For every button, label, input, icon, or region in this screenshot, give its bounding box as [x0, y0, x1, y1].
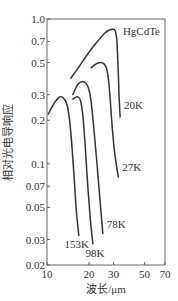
x-tick-label: 10: [42, 268, 54, 280]
curve-label-27k: 27K: [122, 161, 141, 173]
x-tick-label: 50: [139, 268, 151, 280]
curve-label-78k: 78K: [107, 218, 126, 230]
x-tick-label: 70: [160, 268, 172, 280]
curve-78k: [73, 81, 103, 233]
x-axis-title: 波长/μm: [86, 283, 126, 295]
y-tick-label: 0.7: [31, 35, 45, 47]
y-tick-label: 0.05: [26, 201, 46, 213]
series-curves: [48, 29, 120, 244]
chart: 1.00.70.50.30.20.10.070.050.030.02 10203…: [0, 0, 178, 301]
y-tick-label: 0.2: [31, 114, 45, 126]
curve-153k: [48, 97, 79, 236]
series-labels: 20K27K78K98K153K: [65, 99, 144, 259]
curve-98k: [73, 97, 93, 244]
curve-27k: [91, 63, 118, 177]
x-tick-label: 30: [108, 268, 120, 280]
y-tick-label: 1.0: [31, 13, 45, 25]
y-tick-label: 0.1: [31, 158, 45, 170]
x-tick-label: 20: [84, 268, 96, 280]
y-axis-title: 相对光电导响应: [1, 104, 14, 181]
y-tick-label: 0.03: [26, 234, 46, 246]
curve-label-20k: 20K: [124, 99, 143, 111]
curve-20k: [71, 29, 120, 117]
material-annotation: HgCdTe: [123, 25, 160, 37]
y-axis: 1.00.70.50.30.20.10.070.050.030.02: [26, 13, 50, 271]
y-tick-label: 0.07: [26, 180, 46, 192]
curve-label-153k: 153K: [65, 238, 90, 250]
y-tick-label: 0.3: [31, 89, 45, 101]
y-tick-label: 0.5: [31, 57, 45, 69]
